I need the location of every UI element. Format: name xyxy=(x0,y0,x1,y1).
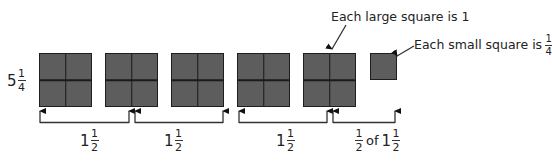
of-text: of xyxy=(366,133,379,148)
group-label-1: 1 1 2 xyxy=(80,128,99,153)
small-square-annotation: Each small square is 1 4 xyxy=(414,34,552,57)
group-label-2: 1 1 2 xyxy=(164,128,183,153)
group-label-4: 1 2 of 1 1 2 xyxy=(354,128,400,153)
group-label-3: 1 1 2 xyxy=(276,128,295,153)
large-square-annotation: Each large square is 1 xyxy=(331,9,469,24)
